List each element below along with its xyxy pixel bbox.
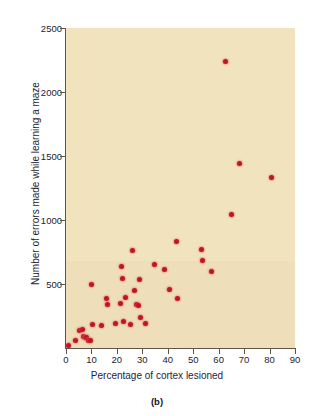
data-point (113, 321, 118, 326)
y-tick-label: 2500 (41, 24, 62, 34)
y-tick-label: 1500 (41, 152, 62, 162)
data-point (105, 302, 110, 307)
data-point (143, 321, 148, 326)
x-axis-title: Percentage of cortex lesioned (0, 370, 314, 381)
data-point (199, 247, 204, 252)
data-point (237, 161, 242, 166)
y-axis-title: Number of errors made while learning a m… (30, 54, 41, 314)
data-point (130, 248, 135, 253)
data-point (118, 301, 123, 306)
x-tick-label: 10 (86, 355, 97, 365)
data-point (137, 277, 142, 282)
data-point (162, 267, 167, 272)
data-point (121, 319, 126, 324)
x-tick-label: 0 (63, 355, 68, 365)
data-point (209, 269, 214, 274)
y-tick-label: 2000 (41, 88, 62, 98)
x-axis-line (65, 348, 296, 349)
data-point (138, 315, 143, 320)
data-point (88, 338, 93, 343)
data-point (269, 175, 274, 180)
data-point (99, 323, 104, 328)
data-point (152, 262, 157, 267)
data-point (200, 258, 205, 263)
x-tick-label: 70 (239, 355, 250, 365)
data-point (104, 296, 109, 301)
data-points-layer (66, 28, 295, 348)
x-tick-label: 40 (162, 355, 173, 365)
x-tick-label: 80 (264, 355, 275, 365)
data-point (132, 288, 137, 293)
data-point (223, 59, 228, 64)
data-point (175, 296, 180, 301)
data-point (167, 287, 172, 292)
data-point (90, 322, 95, 327)
data-point (128, 322, 133, 327)
data-point (89, 282, 94, 287)
x-tick-label: 90 (290, 355, 301, 365)
data-point (73, 338, 78, 343)
x-tick-label: 30 (137, 355, 148, 365)
data-point (119, 264, 124, 269)
y-tick-label: 1000 (41, 216, 62, 226)
data-point (123, 295, 128, 300)
data-point (174, 239, 179, 244)
x-tick-label: 50 (188, 355, 199, 365)
data-point (136, 303, 141, 308)
x-tick-label: 20 (112, 355, 123, 365)
y-axis-line (65, 28, 66, 349)
data-point (120, 276, 125, 281)
data-point (229, 212, 234, 217)
panel-caption: (b) (0, 396, 314, 407)
plot-area (66, 28, 295, 348)
scatter-plot-figure: Number of errors made while learning a m… (0, 0, 314, 416)
x-tick-label: 60 (213, 355, 224, 365)
data-point (80, 327, 85, 332)
